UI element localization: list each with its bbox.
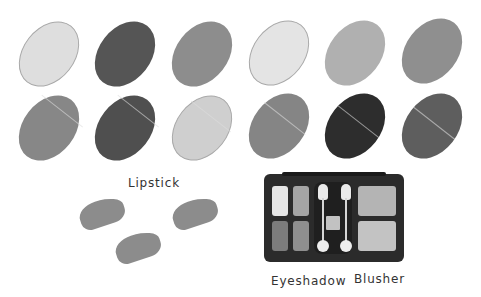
swatch-oval: [236, 9, 321, 98]
eyeshadow-pan: [272, 221, 288, 251]
eyeshadow-pan: [293, 186, 309, 216]
eyeshadow-pan: [272, 186, 288, 216]
swatch-oval: [159, 84, 244, 173]
blusher-pan: [358, 221, 396, 251]
blusher-pan: [358, 186, 396, 216]
makeup-compact: [264, 174, 404, 262]
lipstick-swatch: [112, 228, 164, 267]
center-pan: [326, 216, 340, 230]
eyeshadow-pan: [293, 221, 309, 251]
sponge-applicator: [319, 184, 327, 254]
compact-hinge: [282, 172, 386, 176]
swatch-oval: [159, 10, 244, 99]
eyeshadow-label: Eyeshadow: [271, 274, 346, 288]
swatch-oval: [82, 84, 167, 173]
swatch-oval: [6, 84, 91, 173]
lipstick-swatch: [169, 194, 221, 233]
sponge-applicator: [342, 184, 350, 254]
lipstick-label: Lipstick: [128, 176, 180, 190]
swatch-oval: [312, 9, 397, 98]
swatch-oval: [236, 82, 321, 171]
swatch-oval: [389, 7, 474, 96]
swatch-oval: [389, 82, 474, 171]
lipstick-swatch: [76, 194, 128, 233]
swatch-oval: [312, 82, 397, 171]
swatch-oval: [82, 10, 167, 99]
blusher-label: Blusher: [354, 272, 405, 286]
swatch-oval: [6, 10, 91, 99]
